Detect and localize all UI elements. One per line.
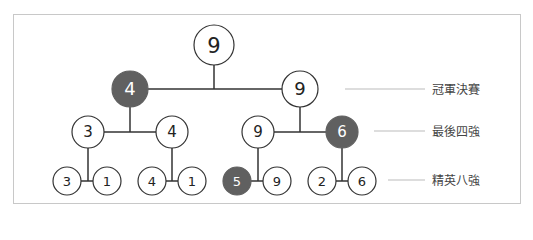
tree-node-qf-8: 6: [348, 167, 376, 195]
tree-node-root: 9: [194, 25, 234, 65]
tree-node-qf-1: 3: [53, 167, 81, 195]
round-label: 精英八強: [432, 171, 480, 188]
svg-text:4: 4: [124, 78, 135, 99]
svg-text:1: 1: [188, 174, 196, 189]
tree-node-f-right: 9: [282, 71, 318, 107]
svg-text:6: 6: [337, 123, 347, 141]
svg-text:3: 3: [63, 174, 71, 189]
svg-text:5: 5: [233, 174, 241, 189]
tree-node-qf-7: 2: [308, 167, 336, 195]
svg-text:9: 9: [294, 78, 305, 99]
svg-text:6: 6: [358, 174, 366, 189]
svg-text:1: 1: [103, 174, 111, 189]
svg-text:9: 9: [273, 174, 281, 189]
round-label: 最後四強: [432, 122, 480, 139]
svg-text:3: 3: [83, 123, 93, 141]
tree-node-sf-3: 9: [242, 116, 274, 148]
round-label: 冠軍決賽: [432, 80, 480, 97]
svg-text:4: 4: [167, 123, 177, 141]
svg-text:2: 2: [318, 174, 326, 189]
tree-node-sf-2: 4: [156, 116, 188, 148]
tree-node-sf-1: 3: [72, 116, 104, 148]
svg-text:9: 9: [207, 34, 220, 58]
tree-node-qf-6: 9: [263, 167, 291, 195]
svg-text:4: 4: [148, 174, 156, 189]
tree-node-qf-4: 1: [178, 167, 206, 195]
tree-node-qf-3: 4: [138, 167, 166, 195]
tree-node-sf-4: 6: [326, 116, 358, 148]
tree-node-qf-2: 1: [93, 167, 121, 195]
tree-node-qf-5: 5: [223, 167, 251, 195]
svg-text:9: 9: [253, 123, 263, 141]
tree-node-f-left: 4: [112, 71, 148, 107]
